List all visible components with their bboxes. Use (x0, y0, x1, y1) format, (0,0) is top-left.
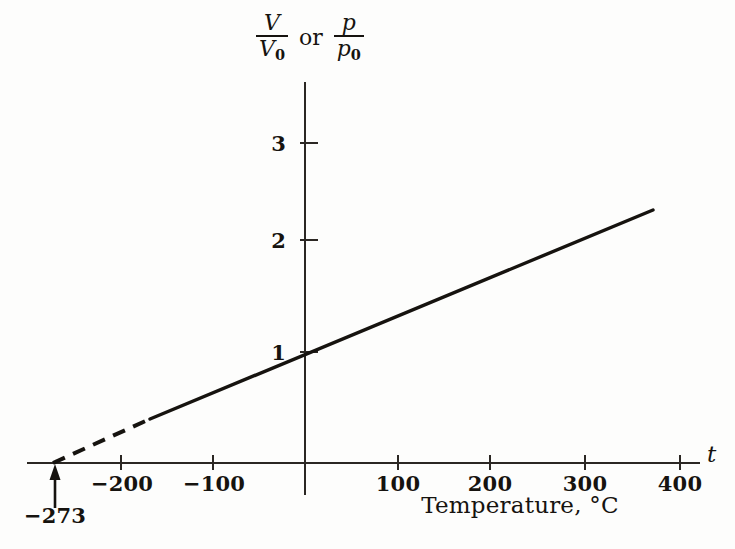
y-tick-label-3: 3 (256, 131, 286, 156)
p-over-p0-fraction: p p0 (334, 12, 364, 63)
y-tick-label-1: 1 (256, 340, 286, 365)
y-tick-label-2: 2 (256, 228, 286, 253)
x-axis-caption: Temperature, °C (370, 492, 670, 518)
x-tick-label-minus100: −100 (169, 471, 259, 496)
data-line (150, 210, 653, 419)
plot-canvas (0, 0, 735, 549)
p0-denominator: p0 (334, 37, 364, 62)
absolute-zero-arrow-head (50, 464, 61, 480)
charles-law-figure: V V0 or p p0 3 2 1 −200 −100 100 200 300… (0, 0, 735, 549)
v-over-v0-fraction: V V0 (256, 12, 288, 63)
x-tick-label-minus200: −200 (77, 471, 167, 496)
v-numerator: V (261, 12, 283, 35)
y-axis-label: V V0 or p p0 (256, 12, 364, 63)
or-conjunction: or (288, 25, 334, 50)
x-axis-symbol: t (707, 441, 716, 467)
absolute-zero-label: −273 (0, 503, 110, 528)
p-numerator: p (339, 12, 359, 35)
extrapolated-line (53, 418, 152, 463)
v0-denominator: V0 (256, 37, 288, 62)
